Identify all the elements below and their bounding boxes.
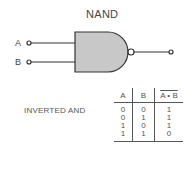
truth-table-header: A B A • B [114,88,183,103]
truth-table: A B A • B 001 011 101 110 [114,88,183,142]
and-gate-body [75,32,128,72]
gate-subtitle: INVERTED AND [24,106,85,115]
header-output: A • B [155,88,184,103]
table-row: 110 [114,130,183,142]
input-a-terminal [27,41,31,45]
inversion-bubble [128,49,134,55]
header-b: B [133,88,155,103]
input-b-terminal [27,60,31,64]
output-terminal [169,50,173,54]
header-a: A [114,88,133,103]
nand-gate-symbol [0,0,195,85]
